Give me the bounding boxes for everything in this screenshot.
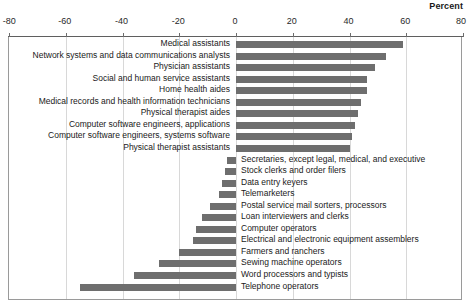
- bar-label: Computer software engineers, systems sof…: [48, 130, 230, 141]
- bar-rows: Medical assistantsNetwork systems and da…: [9, 37, 461, 299]
- bar: [236, 87, 367, 94]
- bar-label: Computer software engineers, application…: [69, 119, 230, 130]
- bar-row: Home health aides: [9, 85, 461, 96]
- bar: [236, 53, 386, 60]
- bar-label: Word processors and typists: [241, 269, 348, 280]
- bar-label: Farmers and ranchers: [241, 246, 325, 257]
- bar-label: Home health aides: [159, 84, 230, 95]
- bar: [196, 226, 236, 233]
- bar: [202, 214, 236, 221]
- x-tick-60: 60: [400, 16, 410, 27]
- bar: [236, 76, 367, 83]
- bar-row: Stock clerks and order filers: [9, 166, 461, 177]
- bar-row: Telephone operators: [9, 282, 461, 293]
- plot-area: Medical assistantsNetwork systems and da…: [8, 36, 462, 300]
- bar-row: Physician assistants: [9, 62, 461, 73]
- bar: [159, 260, 236, 267]
- x-axis-tick-labels: -80-60-40-20020406080: [0, 16, 467, 29]
- bar-label: Physical therapist aides: [141, 107, 230, 118]
- bar-row: Data entry keyers: [9, 178, 461, 189]
- x-tick-80: 80: [456, 16, 466, 27]
- bar-label: Data entry keyers: [241, 177, 308, 188]
- bar-label: Medical records and health information t…: [39, 96, 230, 107]
- bar-row: Secretaries, except legal, medical, and …: [9, 155, 461, 166]
- bar-row: Postal service mail sorters, processors: [9, 201, 461, 212]
- bar: [225, 168, 236, 175]
- percent-change-bar-chart: Percent -80-60-40-20020406080 Medical as…: [0, 0, 467, 304]
- x-tick-neg20: -20: [172, 16, 185, 27]
- x-tick-40: 40: [343, 16, 353, 27]
- x-tick-20: 20: [287, 16, 297, 27]
- bar-row: Word processors and typists: [9, 270, 461, 281]
- bar: [227, 157, 236, 164]
- bar-row: Farmers and ranchers: [9, 247, 461, 258]
- bar-label: Telephone operators: [241, 281, 319, 292]
- bar: [236, 122, 355, 129]
- x-tick-neg80: -80: [3, 16, 16, 27]
- bar-label: Medical assistants: [161, 38, 230, 49]
- bar-label: Loan interviewers and clerks: [241, 211, 349, 222]
- bar: [236, 64, 375, 71]
- x-tick-0: 0: [232, 16, 237, 27]
- bar-label: Social and human service assistants: [93, 73, 231, 84]
- bar-row: Physical therapist assistants: [9, 143, 461, 154]
- bar: [80, 284, 236, 291]
- bar: [236, 41, 403, 48]
- bar-row: Loan interviewers and clerks: [9, 212, 461, 223]
- bar-row: Physical therapist aides: [9, 108, 461, 119]
- bar: [236, 99, 361, 106]
- x-tick-neg60: -60: [58, 16, 71, 27]
- bar-row: Network systems and data communications …: [9, 51, 461, 62]
- bar: [222, 180, 236, 187]
- bar-label: Network systems and data communications …: [33, 50, 230, 61]
- tickmark-80: [463, 33, 464, 37]
- bar-row: Medical records and health information t…: [9, 97, 461, 108]
- bar-label: Telemarketers: [241, 188, 294, 199]
- bar: [236, 145, 350, 152]
- bar-row: Sewing machine operators: [9, 258, 461, 269]
- bar: [134, 272, 236, 279]
- bar-row: Medical assistants: [9, 39, 461, 50]
- bar-row: Computer software engineers, application…: [9, 120, 461, 131]
- axis-unit-label: Percent: [429, 1, 463, 12]
- bar-label: Electrical and electronic equipment asse…: [241, 234, 419, 245]
- bar: [236, 110, 358, 117]
- bar-label: Physician assistants: [153, 61, 230, 72]
- bar-label: Stock clerks and order filers: [241, 165, 346, 176]
- x-tick-neg40: -40: [115, 16, 128, 27]
- bar: [193, 237, 236, 244]
- bar-label: Sewing machine operators: [241, 257, 342, 268]
- bar-row: Electrical and electronic equipment asse…: [9, 235, 461, 246]
- bar: [236, 133, 352, 140]
- bar-label: Secretaries, except legal, medical, and …: [241, 154, 425, 165]
- bar-label: Physical therapist assistants: [123, 142, 230, 153]
- bar-row: Computer software engineers, systems sof…: [9, 131, 461, 142]
- bar: [219, 191, 236, 198]
- bar: [210, 203, 236, 210]
- bar-label: Postal service mail sorters, processors: [241, 200, 387, 211]
- bar-row: Social and human service assistants: [9, 74, 461, 85]
- bar-label: Computer operators: [241, 223, 317, 234]
- bar-row: Telemarketers: [9, 189, 461, 200]
- bar: [179, 249, 236, 256]
- bar-row: Computer operators: [9, 224, 461, 235]
